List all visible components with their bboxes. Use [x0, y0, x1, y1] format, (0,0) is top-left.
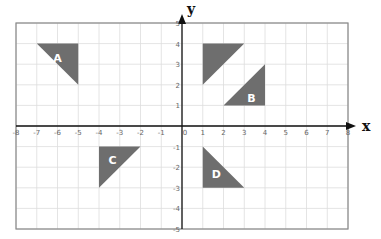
x-tick-label: 3 [242, 129, 246, 137]
y-tick-label: 2 [176, 82, 180, 90]
y-tick-label: 3 [176, 61, 180, 69]
y-tick-label: -4 [173, 205, 181, 213]
x-tick-label: 4 [263, 129, 268, 137]
x-tick-label: -8 [13, 129, 20, 137]
shapes-layer: ABCD [37, 44, 265, 188]
x-tick-label: 8 [346, 129, 350, 137]
x-tick-label: 5 [284, 129, 288, 137]
x-tick-label: -6 [54, 129, 62, 137]
x-tick-label: -2 [137, 129, 144, 137]
x-tick-label: 0 [183, 129, 187, 137]
y-tick-label: -2 [173, 164, 180, 172]
x-tick-label: 1 [201, 129, 205, 137]
y-axis-label: y [186, 1, 196, 17]
x-tick-label: 2 [221, 129, 225, 137]
y-tick-label: -3 [173, 185, 180, 193]
x-tick-label: -7 [33, 129, 40, 137]
triangle-label: D [212, 168, 221, 181]
x-tick-label: -4 [96, 129, 104, 137]
x-axis-label: x [362, 118, 371, 134]
x-tick-label: -1 [158, 129, 165, 137]
y-tick-label: -1 [173, 144, 180, 152]
x-tick-label: -3 [116, 129, 123, 137]
x-tick-label: -5 [75, 129, 82, 137]
triangle-label: B [247, 92, 255, 105]
x-tick-label: 6 [304, 129, 309, 137]
y-tick-label: 1 [176, 102, 180, 110]
x-tick-label: 7 [325, 129, 329, 137]
coordinate-plane: ABCD -8-7-6-5-4-3-2-101234567854321-1-2-… [0, 0, 381, 239]
y-tick-label: 5 [176, 20, 180, 28]
y-tick-label: 4 [176, 41, 181, 49]
y-tick-label: -5 [173, 226, 180, 234]
triangle-label: A [53, 52, 62, 65]
triangle-label: C [108, 154, 116, 167]
